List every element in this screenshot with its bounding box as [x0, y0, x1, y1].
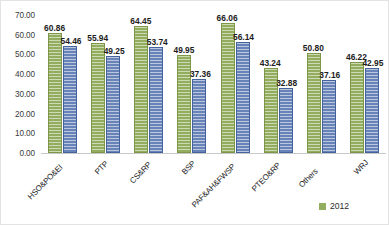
legend-label: 2012	[330, 201, 349, 211]
bar-series-2[interactable]: 56.14	[236, 42, 250, 153]
bar-series-2[interactable]: 37.36	[192, 79, 206, 153]
bar-group: 64.4553.74	[127, 15, 170, 153]
x-axis-label: Others	[297, 166, 319, 188]
y-axis: 0.0010.0020.0030.0040.0050.0060.0070.00	[1, 15, 39, 153]
x-axis-slot: WRJ	[343, 154, 386, 212]
x-axis-label: BSP	[180, 159, 197, 176]
bar-groups: 60.8654.4655.9449.2564.4553.7449.9537.36…	[41, 15, 386, 153]
bar-series-2[interactable]: 32.88	[279, 88, 293, 153]
bar-value-label: 42.95	[362, 58, 383, 68]
x-axis-slot: PTP	[84, 154, 127, 212]
bar-value-label: 53.74	[147, 37, 168, 47]
bar-value-label: 32.88	[276, 78, 297, 88]
bar-value-label: 60.86	[44, 23, 65, 33]
x-axis-slot: CS&RP	[127, 154, 170, 212]
y-axis-tick: 30.00	[15, 89, 35, 98]
bar-value-label: 37.36	[190, 69, 211, 79]
bar-group: 60.8654.46	[41, 15, 84, 153]
chart-legend: 2012	[319, 201, 349, 211]
bar-value-label: 56.14	[233, 32, 254, 42]
bar-group: 55.9449.25	[84, 15, 127, 153]
y-axis-tick: 50.00	[15, 50, 35, 59]
bar-value-label: 64.45	[130, 16, 151, 26]
bar-series-2[interactable]: 42.95	[365, 68, 379, 153]
x-axis-slot: PAF&AH&FWSP	[214, 154, 257, 212]
y-axis-tick: 70.00	[15, 11, 35, 20]
bar-series-1[interactable]: 55.94	[91, 43, 105, 153]
bar-series-1[interactable]: 60.86	[48, 33, 62, 153]
bar-value-label: 49.95	[173, 45, 194, 55]
y-axis-tick: 60.00	[15, 30, 35, 39]
bar-chart: 0.0010.0020.0030.0040.0050.0060.0070.00 …	[0, 0, 389, 225]
bar-series-1[interactable]: 50.80	[307, 53, 321, 153]
y-axis-tick: 10.00	[15, 129, 35, 138]
bar-value-label: 37.16	[319, 70, 340, 80]
bar-value-label: 43.24	[260, 58, 281, 68]
x-axis-label: HSO&PO&EI	[26, 163, 64, 201]
bar-series-2[interactable]: 54.46	[63, 46, 77, 153]
bar-value-label: 55.94	[87, 33, 108, 43]
bar-group: 49.9537.36	[170, 15, 213, 153]
bar-series-2[interactable]: 53.74	[149, 47, 163, 153]
bar-series-2[interactable]: 37.16	[322, 80, 336, 153]
bar-value-label: 50.80	[303, 43, 324, 53]
legend-swatch-icon	[319, 203, 326, 210]
bar-value-label: 66.06	[217, 13, 238, 23]
bar-group: 43.2432.88	[257, 15, 300, 153]
x-axis-slot: PTEO&RP	[257, 154, 300, 212]
bar-series-1[interactable]: 46.22	[350, 62, 364, 153]
x-axis-label: CS&RP	[128, 160, 153, 185]
y-axis-tick: 20.00	[15, 109, 35, 118]
bar-value-label: 54.46	[61, 36, 82, 46]
x-axis-label: PTP	[93, 160, 110, 177]
x-axis-label: WRJ	[352, 158, 370, 176]
x-axis-slot: HSO&PO&EI	[41, 154, 84, 212]
bar-group: 66.0656.14	[214, 15, 257, 153]
bar-group: 50.8037.16	[300, 15, 343, 153]
bar-group: 46.2242.95	[343, 15, 386, 153]
y-axis-tick: 40.00	[15, 70, 35, 79]
y-axis-tick: 0.00	[19, 149, 35, 158]
bar-value-label: 49.25	[104, 46, 125, 56]
bar-series-2[interactable]: 49.25	[106, 56, 120, 153]
